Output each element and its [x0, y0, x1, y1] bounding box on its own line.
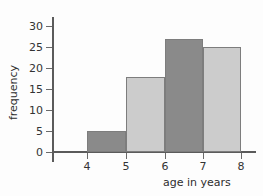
x-tick-mark-7	[203, 153, 204, 159]
y-tick-label-15: 15	[19, 84, 43, 95]
bar-age-6-7	[165, 39, 203, 152]
x-tick-mark-4	[87, 153, 88, 159]
y-tick-mark-10	[46, 110, 52, 111]
y-tick-label-30: 30	[19, 21, 43, 32]
y-tick-label-20: 20	[19, 63, 43, 74]
y-tick-mark-20	[46, 68, 52, 69]
y-tick-mark-30	[46, 26, 52, 27]
y-axis-line	[52, 17, 54, 162]
y-tick-label-5: 5	[19, 126, 43, 137]
y-tick-label-25: 25	[19, 42, 43, 53]
x-tick-label-5: 5	[116, 161, 136, 172]
histogram-chart: 0 5 10 15 20 25 30 4 5 6 7 8 age in year…	[0, 0, 263, 196]
bar-age-4-5	[87, 131, 126, 152]
x-tick-label-8: 8	[231, 161, 251, 172]
x-axis-title: age in years	[163, 176, 231, 189]
y-axis-title: frequency	[7, 61, 20, 125]
y-tick-mark-15	[46, 89, 52, 90]
x-tick-label-7: 7	[193, 161, 213, 172]
y-tick-mark-5	[46, 131, 52, 132]
x-tick-mark-6	[165, 153, 166, 159]
x-tick-mark-5	[126, 153, 127, 159]
bar-age-5-6	[126, 77, 165, 152]
y-tick-label-0: 0	[19, 147, 43, 158]
y-tick-mark-0	[46, 152, 52, 153]
y-tick-mark-25	[46, 47, 52, 48]
x-tick-mark-8	[241, 153, 242, 159]
x-tick-label-6: 6	[155, 161, 175, 172]
bar-age-7-8	[203, 47, 241, 152]
x-tick-label-4: 4	[77, 161, 97, 172]
y-tick-label-10: 10	[19, 105, 43, 116]
